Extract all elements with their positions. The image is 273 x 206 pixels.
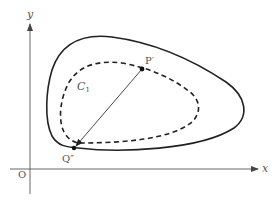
inner-curve-c1 xyxy=(61,62,199,143)
segment-p-q xyxy=(76,69,142,146)
origin-label: O xyxy=(18,169,26,180)
outer-curve xyxy=(47,36,244,150)
point-p-prime xyxy=(140,67,145,72)
c1-label: C1 xyxy=(77,80,90,94)
x-axis-label: x xyxy=(262,162,269,175)
q-double-prime-label: Q″ xyxy=(62,153,74,164)
diagram-canvas: y x O C1 P′ Q″ xyxy=(0,0,273,206)
p-prime-label: P′ xyxy=(145,55,155,66)
point-q-double-prime xyxy=(72,146,76,150)
y-axis-label: y xyxy=(26,8,34,21)
